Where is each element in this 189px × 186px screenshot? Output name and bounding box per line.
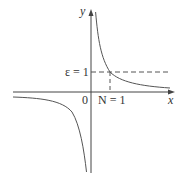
x-axis <box>13 90 175 95</box>
curve-positive-branch <box>96 12 170 88</box>
x-axis-label: x <box>167 93 174 107</box>
epsilon-label: ε = 1 <box>65 65 89 79</box>
N-label: N = 1 <box>98 93 125 107</box>
origin-label: 0 <box>82 93 88 107</box>
curve-negative-branch <box>13 97 87 172</box>
y-axis-arrow-icon <box>89 9 94 16</box>
hyperbola-figure: y x 0 ε = 1 N = 1 <box>0 0 189 186</box>
y-axis <box>89 9 94 173</box>
y-axis-label: y <box>79 4 86 18</box>
